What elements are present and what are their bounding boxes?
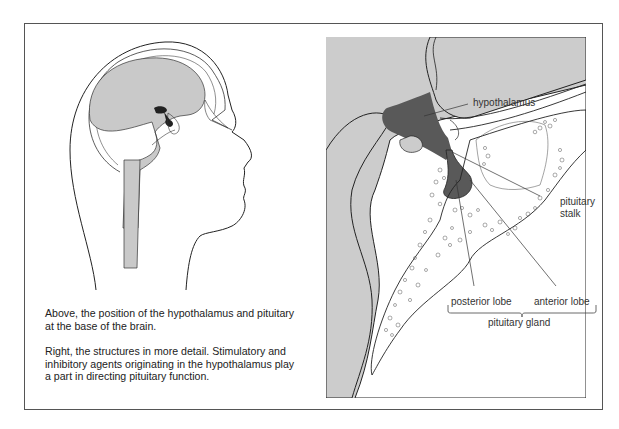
label-pituitary-gland: pituitary gland <box>488 317 550 328</box>
label-posterior-lobe: posterior lobe <box>451 296 512 307</box>
label-pituitary-stalk-line1: pituitary <box>560 196 595 207</box>
label-pituitary-stalk-line2: stalk <box>560 208 581 219</box>
pituitary-detail-illustration <box>0 0 619 429</box>
label-hypothalamus: hypothalamus <box>473 97 535 108</box>
label-anterior-lobe: anterior lobe <box>534 296 590 307</box>
